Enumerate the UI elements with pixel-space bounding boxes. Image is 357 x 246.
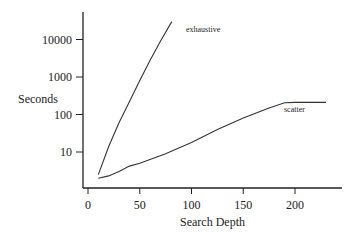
series-label-exhaustive: exhaustive	[186, 25, 221, 34]
series-label-scatter: scatter	[284, 105, 305, 114]
x-tick-label: 0	[85, 198, 91, 212]
y-tick-label: 1000	[48, 70, 72, 84]
chart: 05010015020010100100010000SecondsSearch …	[0, 0, 357, 246]
x-tick-label: 100	[183, 198, 201, 212]
x-tick-label: 50	[134, 198, 146, 212]
y-tick-label: 10000	[42, 33, 72, 47]
x-tick-label: 200	[286, 198, 304, 212]
x-axis-label: Search Depth	[180, 215, 245, 229]
y-axis-label: Seconds	[18, 92, 58, 106]
y-tick-label: 100	[54, 108, 72, 122]
x-tick-label: 150	[234, 198, 252, 212]
series-line-exhaustive	[98, 22, 172, 175]
y-tick-label: 10	[60, 145, 72, 159]
